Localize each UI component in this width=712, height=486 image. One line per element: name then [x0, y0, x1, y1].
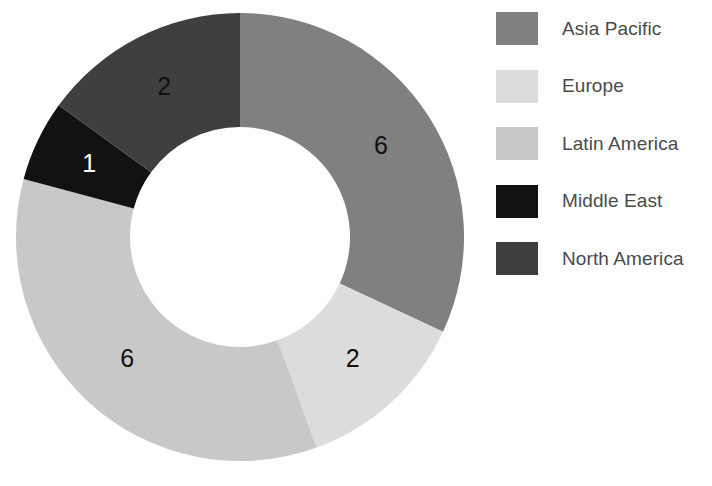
- legend-swatch-europe: [496, 70, 538, 103]
- donut-chart-figure: 62612 Asia Pacific Europe Latin America …: [0, 0, 712, 486]
- donut-slice-value-label: 2: [157, 72, 171, 100]
- chart-legend: Asia Pacific Europe Latin America Middle…: [496, 0, 712, 300]
- donut-svg: 62612: [0, 0, 480, 486]
- legend-swatch-latin-america: [496, 127, 538, 160]
- legend-label-europe: Europe: [562, 75, 624, 97]
- legend-item-europe[interactable]: Europe: [496, 58, 712, 116]
- legend-swatch-middle-east: [496, 185, 538, 218]
- donut-slice-value-label: 1: [82, 149, 96, 177]
- legend-swatch-north-america: [496, 242, 538, 275]
- legend-label-middle-east: Middle East: [562, 190, 662, 212]
- legend-item-asia-pacific[interactable]: Asia Pacific: [496, 0, 712, 58]
- legend-label-north-america: North America: [562, 248, 684, 270]
- legend-item-latin-america[interactable]: Latin America: [496, 115, 712, 173]
- chart-plot-area: 62612: [0, 0, 480, 486]
- donut-slice-value-label: 2: [346, 344, 360, 372]
- donut-slice[interactable]: [240, 13, 464, 332]
- legend-item-north-america[interactable]: North America: [496, 230, 712, 288]
- donut-slices-group: [16, 13, 464, 461]
- legend-swatch-asia-pacific: [496, 12, 538, 45]
- legend-label-latin-america: Latin America: [562, 133, 678, 155]
- legend-label-asia-pacific: Asia Pacific: [562, 18, 661, 40]
- donut-slice-value-label: 6: [374, 131, 388, 159]
- legend-item-middle-east[interactable]: Middle East: [496, 173, 712, 231]
- donut-slice[interactable]: [16, 179, 317, 461]
- donut-slice-value-label: 6: [120, 344, 134, 372]
